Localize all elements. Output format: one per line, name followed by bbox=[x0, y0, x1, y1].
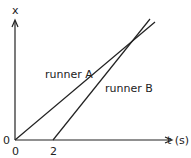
runner-a-label: runner A bbox=[45, 69, 93, 80]
x-tick-0: 0 bbox=[12, 146, 19, 157]
x-axis-label: t (s) bbox=[167, 135, 189, 146]
graph-canvas bbox=[0, 0, 191, 158]
runner-b-label: runner B bbox=[105, 83, 153, 94]
x-tick-2: 2 bbox=[50, 146, 57, 157]
origin-y-label: 0 bbox=[3, 135, 10, 146]
y-axis-label: x bbox=[12, 5, 19, 16]
